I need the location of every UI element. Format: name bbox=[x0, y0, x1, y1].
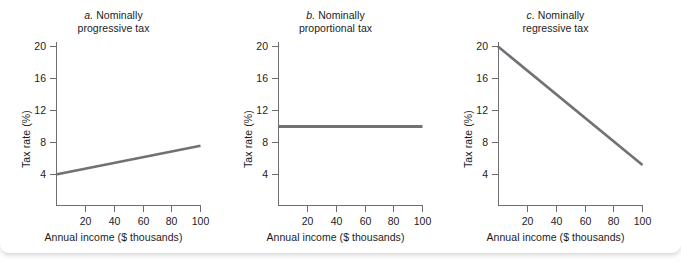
panel-b-x-axis-label: Annual income ($ thousands) bbox=[222, 231, 449, 243]
panel-c-y-ticks bbox=[492, 47, 498, 175]
panel-a-xtick-80: 80 bbox=[166, 215, 178, 227]
panel-b-xtick-100: 100 bbox=[414, 215, 432, 227]
panel-a-plot: 20 16 12 8 4 20 40 60 80 100 bbox=[0, 0, 227, 253]
chart-panel-a: a. Nominally progressive tax Tax rate (%… bbox=[0, 0, 227, 253]
figure-card: a. Nominally progressive tax Tax rate (%… bbox=[0, 0, 681, 253]
panel-a-data-line bbox=[56, 146, 201, 175]
panel-c-x-axis-label: Annual income ($ thousands) bbox=[442, 231, 669, 243]
panel-a-xtick-60: 60 bbox=[138, 215, 150, 227]
panel-c-ytick-20: 20 bbox=[476, 40, 488, 52]
panel-c-xtick-40: 40 bbox=[551, 215, 563, 227]
panel-a-xtick-40: 40 bbox=[109, 215, 121, 227]
panel-c-plot: 20 16 12 8 4 20 40 60 80 100 bbox=[442, 0, 669, 253]
panel-a-x-ticks bbox=[86, 205, 201, 212]
panel-c-ytick-12: 12 bbox=[476, 104, 488, 116]
panel-c-xtick-80: 80 bbox=[608, 215, 620, 227]
panel-b-xtick-60: 60 bbox=[360, 215, 372, 227]
panel-c-xtick-100: 100 bbox=[634, 215, 652, 227]
panel-a-ytick-16: 16 bbox=[34, 72, 46, 84]
panel-b-plot: 20 16 12 8 4 20 40 60 80 100 bbox=[222, 0, 449, 253]
panel-b-ytick-20: 20 bbox=[256, 40, 268, 52]
panel-b-ytick-12: 12 bbox=[256, 104, 268, 116]
panel-a-ytick-12: 12 bbox=[34, 104, 46, 116]
chart-panel-c: c. Nominally regressive tax Tax rate (%) bbox=[442, 0, 669, 253]
panel-c-xtick-60: 60 bbox=[580, 215, 592, 227]
panel-c-ytick-16: 16 bbox=[476, 72, 488, 84]
panel-b-ytick-4: 4 bbox=[262, 168, 268, 180]
panel-c-ytick-4: 4 bbox=[482, 168, 488, 180]
chart-panel-b: b. Nominally proportional tax Tax rate (… bbox=[222, 0, 449, 253]
panel-c-x-ticks bbox=[528, 205, 643, 212]
panel-b-ytick-8: 8 bbox=[262, 136, 268, 148]
panel-b-y-ticks bbox=[272, 47, 278, 175]
panel-a-y-ticks bbox=[50, 47, 56, 175]
panel-a-ytick-8: 8 bbox=[40, 136, 46, 148]
panel-c-xtick-20: 20 bbox=[522, 215, 534, 227]
panel-c-ytick-8: 8 bbox=[482, 136, 488, 148]
panel-c-data-line bbox=[498, 47, 643, 166]
panel-b-ytick-16: 16 bbox=[256, 72, 268, 84]
panel-a-xtick-100: 100 bbox=[192, 215, 210, 227]
panel-a-ytick-20: 20 bbox=[34, 40, 46, 52]
panel-b-x-ticks bbox=[308, 205, 423, 212]
panel-a-ytick-4: 4 bbox=[40, 168, 46, 180]
panel-b-xtick-20: 20 bbox=[302, 215, 314, 227]
panel-a-xtick-20: 20 bbox=[80, 215, 92, 227]
panel-a-x-axis-label: Annual income ($ thousands) bbox=[0, 231, 227, 243]
panel-b-xtick-80: 80 bbox=[388, 215, 400, 227]
panel-b-xtick-40: 40 bbox=[331, 215, 343, 227]
